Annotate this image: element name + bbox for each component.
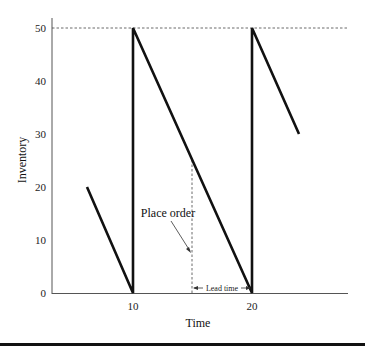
y-tick-labels: 0 10 20 30 40 50 [35,22,47,299]
inventory-chart: 0 10 20 30 40 50 10 20 Time Inventory Pl… [0,0,365,347]
place-order-label: Place order [141,206,195,220]
x-tick-10: 10 [128,300,140,312]
y-tick-50: 50 [35,22,47,34]
y-tick-40: 40 [35,75,47,87]
x-tick-labels: 10 20 [128,300,259,312]
y-tick-10: 10 [35,234,47,246]
y-tick-0: 0 [41,287,47,299]
x-axis-title: Time [186,316,211,330]
place-order-arrowhead [186,247,191,253]
lead-time-annotation: Lead time [193,284,251,293]
lead-time-label: Lead time [206,284,239,293]
x-tick-20: 20 [247,300,259,312]
inventory-series [87,28,299,293]
y-axis-title: Inventory [15,137,29,184]
place-order-arrow [171,221,190,251]
y-tick-20: 20 [35,181,47,193]
bottom-rule [0,343,365,346]
y-tick-30: 30 [35,128,47,140]
